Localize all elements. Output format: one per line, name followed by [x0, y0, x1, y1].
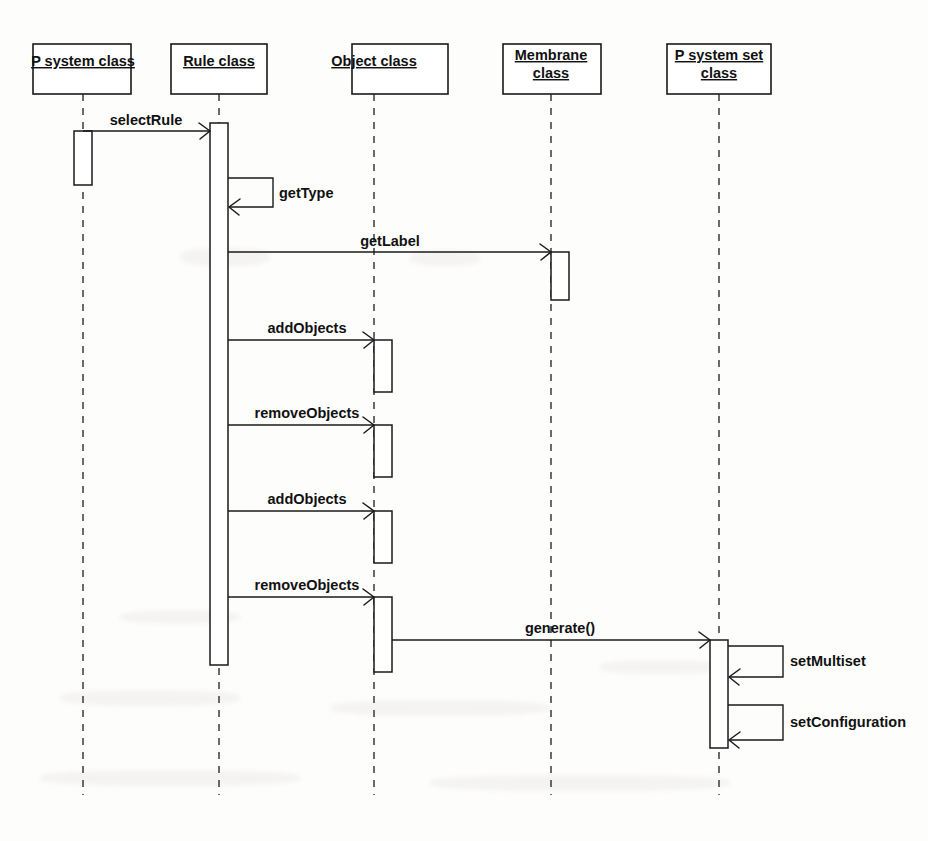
message-msg-add-objects-1[interactable]: addObjects: [228, 320, 374, 348]
lifeline-label-rule-class: Rule class: [183, 53, 255, 69]
lifeline-header-rule-class[interactable]: Rule class: [171, 44, 267, 94]
lifeline-label-p-system-set-class: P system set: [675, 47, 764, 63]
sequence-diagram-canvas: P system classRule classObject classMemb…: [0, 0, 928, 841]
activation-bar-act-object-add-2[interactable]: [374, 511, 392, 563]
message-msg-get-label[interactable]: getLabel: [228, 233, 551, 260]
message-label-msg-select-rule: selectRule: [110, 112, 183, 128]
lifeline-header-object-class[interactable]: Object class: [331, 44, 448, 94]
lifeline-label-object-class: Object class: [331, 53, 416, 69]
activation-bar-act-p-system[interactable]: [74, 131, 92, 185]
lifeline-header-p-system-class[interactable]: P system class: [31, 44, 135, 94]
lifeline-box-rule-class[interactable]: [171, 44, 267, 94]
message-label-msg-set-configuration: setConfiguration: [790, 714, 906, 730]
message-msg-set-configuration[interactable]: setConfiguration: [728, 705, 906, 748]
lifeline-header-p-system-set-class[interactable]: P system setclass: [667, 44, 771, 94]
message-label-msg-add-objects-2: addObjects: [268, 491, 347, 507]
lifeline-box-p-system-class[interactable]: [33, 44, 131, 94]
message-label-msg-generate: generate(): [525, 620, 595, 636]
activation-bar-act-p-system-set[interactable]: [710, 640, 728, 748]
lifeline-header-membrane-class[interactable]: Membraneclass: [503, 44, 601, 94]
message-msg-select-rule[interactable]: selectRule: [83, 112, 210, 139]
message-msg-remove-objects-1[interactable]: removeObjects: [228, 405, 374, 433]
message-label-msg-get-label: getLabel: [360, 233, 420, 249]
message-label-msg-remove-objects-1: removeObjects: [255, 405, 360, 421]
message-msg-add-objects-2[interactable]: addObjects: [228, 491, 374, 519]
lifeline-box-object-class[interactable]: [352, 44, 448, 94]
message-msg-set-multiset[interactable]: setMultiset: [728, 646, 866, 685]
message-msg-remove-objects-2[interactable]: removeObjects: [228, 577, 374, 605]
message-label-msg-set-multiset: setMultiset: [790, 653, 866, 669]
activation-bar-act-object-remove-2[interactable]: [374, 597, 392, 672]
lifeline-label-membrane-class: class: [533, 65, 569, 81]
message-label-msg-add-objects-1: addObjects: [268, 320, 347, 336]
lifeline-label-p-system-class: P system class: [31, 53, 135, 69]
message-label-msg-remove-objects-2: removeObjects: [255, 577, 360, 593]
message-msg-get-type[interactable]: getType: [228, 178, 334, 215]
activation-bar-act-object-remove-1[interactable]: [374, 425, 392, 477]
lifeline-label-p-system-set-class: class: [701, 65, 737, 81]
activation-bar-act-membrane-getlabel[interactable]: [551, 252, 569, 300]
message-label-msg-get-type: getType: [279, 185, 334, 201]
diagram-svg: P system classRule classObject classMemb…: [0, 0, 928, 841]
activation-bar-act-rule[interactable]: [210, 123, 228, 665]
activation-bar-act-object-add-1[interactable]: [374, 340, 392, 392]
lifeline-label-membrane-class: Membrane: [515, 47, 588, 63]
